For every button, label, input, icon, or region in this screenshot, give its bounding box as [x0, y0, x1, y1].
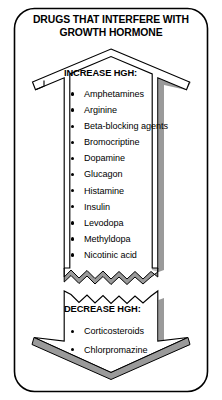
drug-list-decrease: Corticosteroids Chlorpromazine	[70, 322, 148, 359]
list-item-label: Histamine	[84, 186, 124, 196]
bullet-icon	[71, 221, 74, 224]
list-item-label: Insulin	[84, 202, 110, 212]
list-item-label: Nicotinic acid	[84, 250, 137, 260]
list-item: Methyldopa	[70, 231, 168, 247]
bullet-icon	[71, 157, 74, 160]
list-item: Amphetamines	[70, 86, 168, 102]
list-item: Chlorpromazine	[70, 341, 148, 360]
list-item: Beta-blocking agents	[70, 118, 168, 134]
bullet-icon	[71, 348, 74, 351]
list-item-label: Beta-blocking agents	[84, 121, 168, 131]
bullet-icon	[71, 141, 74, 144]
list-item-label: Corticosteroids	[84, 326, 144, 336]
list-item-label: Methyldopa	[84, 234, 131, 244]
list-item: Insulin	[70, 199, 168, 215]
list-item-label: Bromocriptine	[84, 137, 139, 147]
list-item-label: Chlorpromazine	[84, 345, 148, 355]
list-item: Bromocriptine	[70, 134, 168, 150]
list-item-label: Dopamine	[84, 153, 125, 163]
bullet-icon	[71, 330, 74, 333]
list-item-label: Levodopa	[84, 218, 124, 228]
list-item: Levodopa	[70, 215, 168, 231]
list-item: Arginine	[70, 102, 168, 118]
list-item: Dopamine	[70, 150, 168, 166]
list-item: Histamine	[70, 183, 168, 199]
bullet-icon	[71, 108, 74, 111]
section-heading-decrease: DECREASE HGH:	[64, 304, 141, 314]
page-title: DRUGS THAT INTERFERE WITH GROWTH HORMONE	[22, 13, 200, 39]
bullet-icon	[71, 205, 74, 208]
list-item: Corticosteroids	[70, 322, 148, 341]
bullet-icon	[71, 237, 74, 240]
page-title-line-1: DRUGS THAT INTERFERE WITH	[22, 13, 200, 26]
list-item: Nicotinic acid	[70, 247, 168, 263]
bullet-icon	[71, 173, 74, 176]
list-item-label: Amphetamines	[84, 89, 144, 99]
page-title-line-2: GROWTH HORMONE	[22, 26, 200, 39]
bullet-icon	[71, 189, 74, 192]
bullet-icon	[71, 253, 74, 256]
drug-list-increase: Amphetamines Arginine Beta-blocking agen…	[70, 86, 168, 263]
hgh-drugs-figure: DRUGS THAT INTERFERE WITH GROWTH HORMONE…	[0, 0, 222, 400]
list-item: Glucagon	[70, 166, 168, 182]
list-item-label: Arginine	[84, 105, 117, 115]
bullet-icon	[71, 92, 74, 95]
bullet-icon	[71, 125, 74, 128]
section-heading-increase: INCREASE HGH:	[64, 68, 137, 78]
list-item-label: Glucagon	[84, 169, 123, 179]
